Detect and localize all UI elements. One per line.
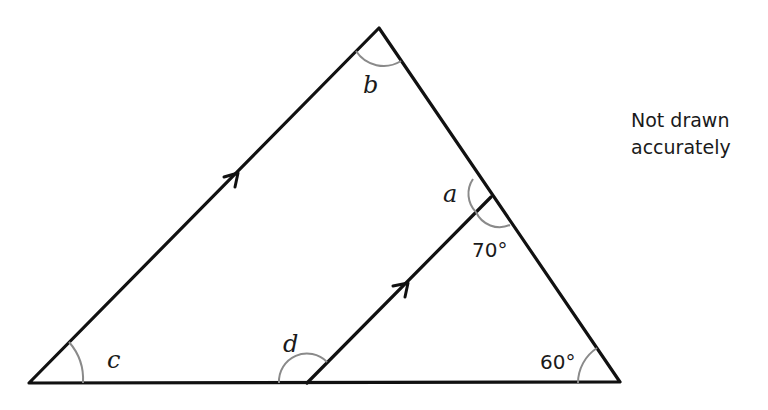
angle-arc-60 <box>578 348 597 383</box>
angle-arc-a <box>468 179 476 212</box>
label-d: d <box>283 330 298 358</box>
parallel-segment <box>307 197 491 383</box>
label-a: a <box>443 180 457 208</box>
outer-triangle <box>29 28 620 383</box>
label-60: 60° <box>540 350 575 374</box>
not-drawn-accurately-note: Not drawn accurately <box>631 107 731 161</box>
label-b: b <box>363 71 378 99</box>
note-line-2: accurately <box>631 134 731 161</box>
angle-arc-c <box>69 342 83 383</box>
triangle-diagram: b a 70° c d 60° <box>0 0 768 410</box>
label-c: c <box>107 346 120 374</box>
label-70: 70° <box>472 238 507 262</box>
note-line-1: Not drawn <box>631 107 731 134</box>
